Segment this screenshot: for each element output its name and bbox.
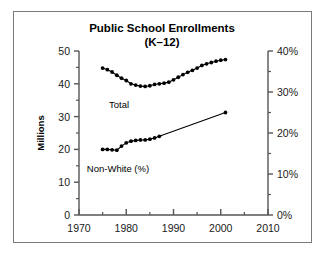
series-point (214, 59, 218, 63)
series-point (176, 75, 180, 79)
chart-frame: Public School Enrollments (K–12) 0102030… (13, 11, 312, 243)
x-tick-label: 2010 (256, 222, 280, 234)
series-point (186, 70, 190, 74)
series-label-total: Total (109, 99, 129, 110)
right-tick-label: 20% (277, 127, 298, 139)
x-tick-label: 1980 (115, 222, 139, 234)
axes-lines (79, 51, 268, 215)
series-point (143, 85, 147, 89)
public-school-enrollments-chart: Public School Enrollments (K–12) 0102030… (14, 12, 311, 242)
right-tick-label: 40% (277, 45, 298, 57)
chart-title: Public School Enrollments (89, 22, 235, 34)
series-point (139, 138, 143, 142)
left-tick-label: 0 (64, 209, 70, 221)
series-point (134, 83, 138, 87)
x-axis-ticks: 19701980199020002010 (67, 209, 280, 234)
series-point (101, 66, 105, 70)
series-point (200, 64, 204, 68)
series-point (120, 76, 124, 80)
left-tick-label: 50 (58, 45, 70, 57)
series-point (105, 148, 109, 152)
series-point (143, 138, 147, 142)
series-annotations: TotalNon-White (%) (87, 99, 149, 174)
right-tick-label: 10% (277, 168, 298, 180)
left-tick-label: 10 (58, 176, 70, 188)
left-axis-ticks: 01020304050 (58, 45, 79, 221)
series-point (110, 148, 114, 152)
x-tick-label: 1990 (162, 222, 186, 234)
series-point (134, 138, 138, 142)
series-label-non-white: Non-White (%) (87, 163, 149, 174)
series-point (172, 78, 176, 82)
series-point (110, 70, 114, 74)
series-point (124, 141, 128, 145)
series-point (153, 136, 157, 140)
series-point (148, 137, 152, 141)
chart-figure: Public School Enrollments (K–12) 0102030… (0, 0, 327, 262)
series-point (224, 111, 228, 115)
series-point (219, 58, 223, 62)
series-point (115, 148, 119, 152)
right-axis-ticks: 0%10%20%30%40% (268, 45, 298, 221)
right-tick-label: 30% (277, 86, 298, 98)
chart-subtitle: (K–12) (144, 36, 179, 48)
series-point (124, 79, 128, 83)
y-axis-title: Millions (35, 115, 46, 150)
series-point (157, 134, 161, 138)
series-point (157, 82, 161, 86)
x-tick-label: 1970 (67, 222, 91, 234)
series-point (181, 73, 185, 77)
series-point (153, 83, 157, 87)
left-tick-label: 30 (58, 111, 70, 123)
series-point (191, 68, 195, 72)
series-point (205, 62, 209, 66)
left-tick-label: 40 (58, 78, 70, 90)
series-point (129, 139, 133, 143)
series-point (120, 144, 124, 148)
series-point (224, 58, 228, 62)
series-point (115, 73, 119, 77)
series-point (139, 84, 143, 88)
series-point (129, 82, 133, 86)
series-point (101, 148, 105, 152)
series-point (162, 81, 166, 85)
right-tick-label: 0% (277, 209, 292, 221)
series-point (148, 84, 152, 88)
series-point (105, 68, 109, 72)
x-tick-label: 2000 (209, 222, 233, 234)
series-point (209, 61, 213, 65)
left-tick-label: 20 (58, 143, 70, 155)
series-point (195, 66, 199, 70)
series-point (167, 80, 171, 84)
